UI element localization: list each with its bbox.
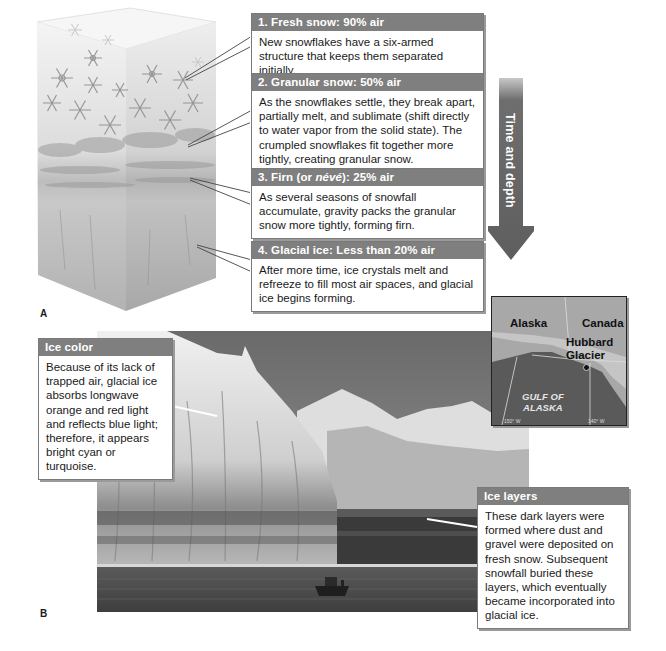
ice-color-description: Because of its lack of trapped air, glac… — [39, 356, 172, 479]
glacier-location-marker-icon — [583, 364, 590, 371]
ice-color-title: Ice color — [39, 339, 172, 356]
ice-color-callout: Ice color Because of its lack of trapped… — [38, 338, 173, 480]
stage-firn-callout: 3. Firn (or névé): 25% air As several se… — [251, 168, 484, 239]
stage-title: 2. Granular snow: 50% air — [252, 74, 483, 91]
panel-label-a: A — [40, 308, 47, 319]
map-label-alaska: Alaska — [510, 317, 547, 329]
map-longitude-label: 150° W — [504, 418, 520, 424]
stage-description: After more time, ice crystals melt and r… — [252, 259, 483, 311]
stage-description: As the snowflakes settle, they break apa… — [252, 91, 483, 171]
stage-title: 1. Fresh snow: 90% air — [252, 14, 483, 31]
map-label-canada: Canada — [582, 317, 624, 329]
map-longitude-label: 140° W — [588, 418, 604, 424]
location-inset-map: Alaska Canada Hubbard Glacier GULF OF AL… — [491, 296, 627, 426]
stage-description: As several seasons of snowfall accumulat… — [252, 186, 483, 238]
stage-glacial-ice-callout: 4. Glacial ice: Less than 20% air After … — [251, 241, 484, 312]
stage-granular-snow-callout: 2. Granular snow: 50% air As the snowfla… — [251, 73, 484, 172]
snow-column-illustration — [0, 0, 250, 320]
panel-label-b: B — [40, 608, 47, 619]
ice-layers-description: These dark layers were formed where dust… — [478, 505, 628, 628]
ice-layers-title: Ice layers — [478, 488, 628, 505]
stage-title: 4. Glacial ice: Less than 20% air — [252, 242, 483, 259]
map-label-gulf-of-alaska: GULF OF ALASKA — [522, 391, 564, 413]
time-depth-label: Time and depth — [496, 90, 524, 230]
ice-layers-callout: Ice layers These dark layers were formed… — [477, 487, 629, 629]
map-label-hubbard-glacier: Hubbard Glacier — [566, 336, 613, 362]
stage-title: 3. Firn (or névé): 25% air — [252, 169, 483, 186]
